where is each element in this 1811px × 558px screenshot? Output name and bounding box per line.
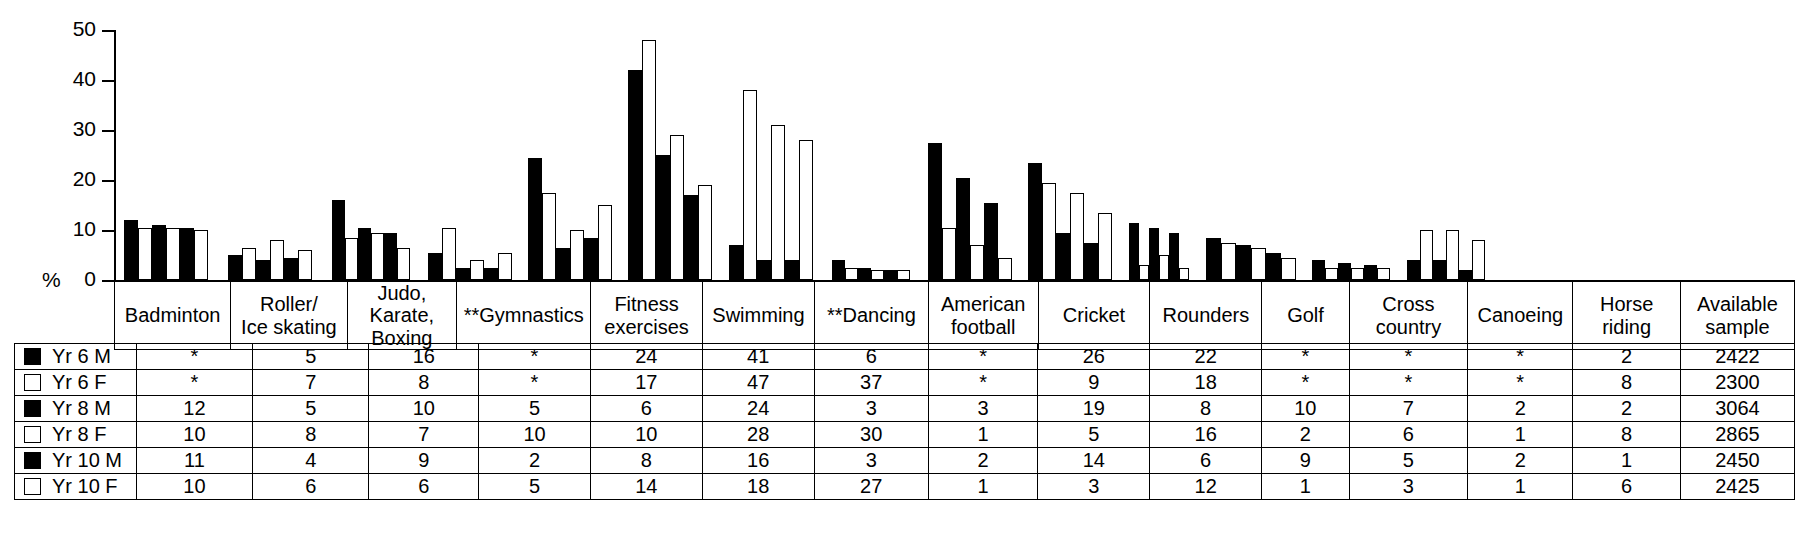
bar [1149, 228, 1159, 281]
table-cell: 6 [253, 474, 369, 500]
table-cell: 14 [590, 474, 702, 500]
table-row: Yr 6 F*78*174737*918***82300 [15, 370, 1795, 396]
bar [1056, 233, 1070, 281]
table-cell: 7 [253, 370, 369, 396]
bar [871, 270, 884, 280]
bar [1159, 255, 1169, 280]
bar [1206, 238, 1221, 281]
table-cell: 2865 [1680, 422, 1794, 448]
bar [942, 228, 956, 281]
category-header-cell: Rounders [1150, 282, 1262, 350]
table-cell: 10 [136, 474, 252, 500]
bar [1312, 260, 1325, 280]
table-cell: 18 [1150, 370, 1262, 396]
bar [628, 70, 642, 280]
bar [832, 260, 845, 280]
bar-group [520, 30, 620, 280]
category-header-cell: Swimming [703, 282, 815, 350]
bar [1459, 270, 1472, 280]
bar-group [822, 30, 920, 280]
bar [166, 228, 180, 281]
table-cell: 3 [1349, 474, 1468, 500]
table-cell: 10 [590, 422, 702, 448]
table-cell: 12 [136, 396, 252, 422]
table-cell: 30 [814, 422, 928, 448]
category-header-cell: Fitnessexercises [591, 282, 703, 350]
bar [858, 268, 871, 281]
legend-label-text: Yr 8 F [52, 423, 106, 445]
bar [642, 40, 656, 280]
bar [1139, 265, 1149, 280]
y-tick-label: 20 [56, 167, 96, 191]
table-cell: 6 [1150, 448, 1262, 474]
table-cell: * [1349, 370, 1468, 396]
table-cell: 9 [1262, 448, 1350, 474]
legend-row-label: Yr 6 F [15, 370, 137, 396]
bar [256, 260, 270, 280]
table-cell: 9 [369, 448, 479, 474]
table-cell: 28 [702, 422, 814, 448]
legend-label-text: Yr 6 F [52, 371, 106, 393]
table-cell: 6 [369, 474, 479, 500]
bar [556, 248, 570, 281]
table-cell: 10 [369, 396, 479, 422]
table-cell: 9 [1038, 370, 1150, 396]
bar [228, 255, 242, 280]
bar [956, 178, 970, 281]
table-cell: * [1468, 370, 1573, 396]
table-cell: * [136, 344, 252, 370]
table-cell: 5 [253, 344, 369, 370]
bar-group [720, 30, 822, 280]
category-header-cell: Cross country [1349, 282, 1467, 350]
category-header-cell: Americanfootball [928, 282, 1038, 350]
bar [428, 253, 442, 281]
y-tick-label: 0 [56, 267, 96, 291]
table-cell: 6 [1349, 422, 1468, 448]
table-cell: 4 [253, 448, 369, 474]
bar [1351, 268, 1364, 281]
table-cell: 2 [928, 448, 1038, 474]
table-row: Yr 8 F108710102830151626182865 [15, 422, 1795, 448]
bar [684, 195, 698, 280]
table-cell: 2422 [1680, 344, 1794, 370]
table-cell: 8 [1150, 396, 1262, 422]
table-cell: 2 [1262, 422, 1350, 448]
bar [470, 260, 484, 280]
table-cell: 5 [479, 396, 591, 422]
bar [152, 225, 166, 280]
bar [1338, 263, 1351, 281]
category-header-cell: Cricket [1038, 282, 1150, 350]
bar [884, 270, 897, 280]
table-cell: 47 [702, 370, 814, 396]
legend-row-label: Yr 10 F [15, 474, 137, 500]
open-square-icon [24, 426, 41, 443]
table-cell: * [479, 344, 591, 370]
table-cell: 2 [1468, 396, 1573, 422]
table-cell: 7 [1349, 396, 1468, 422]
table-cell: 16 [702, 448, 814, 474]
bar [345, 238, 358, 281]
filled-square-icon [24, 452, 41, 469]
bar [1221, 243, 1236, 281]
bar [785, 260, 799, 280]
bar [138, 228, 152, 281]
bar [584, 238, 598, 281]
bar [1433, 260, 1446, 280]
bar-group [1198, 30, 1304, 280]
filled-square-icon [24, 348, 41, 365]
bar [1028, 163, 1042, 281]
table-cell: 22 [1150, 344, 1262, 370]
table-cell: 5 [1038, 422, 1150, 448]
table-cell: * [1262, 370, 1350, 396]
bar-group [114, 30, 218, 280]
bar-chart-plot: % 50403020100 [0, 0, 1811, 288]
bar [384, 233, 397, 281]
bar [799, 140, 813, 280]
bar [771, 125, 785, 280]
table-cell: 8 [1573, 370, 1680, 396]
table-cell: * [479, 370, 591, 396]
bar [1446, 230, 1459, 280]
bar [456, 268, 470, 281]
open-square-icon [24, 374, 41, 391]
legend-label-text: Yr 6 M [52, 345, 111, 367]
